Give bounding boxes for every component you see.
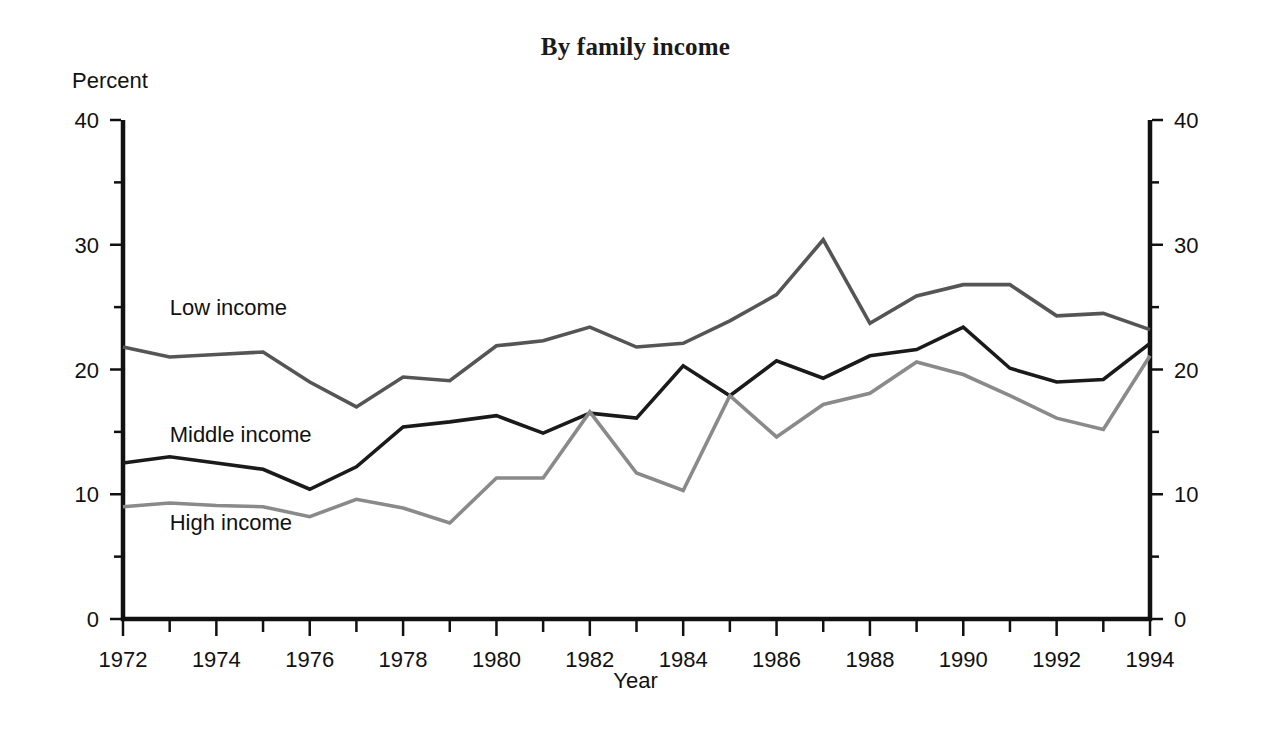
series-line-middle-income: [123, 327, 1150, 489]
series-line-low-income: [123, 240, 1150, 407]
tick-marks-group: [110, 120, 1163, 636]
series-label-middle-income: Middle income: [170, 422, 312, 447]
y-tick-label: 20: [75, 358, 99, 383]
axes-group: [123, 120, 1150, 619]
y-tick-label-right: 0: [1174, 607, 1186, 632]
axis-frame: [123, 120, 1150, 619]
series-label-high-income: High income: [170, 510, 292, 535]
y-tick-label: 30: [75, 233, 99, 258]
series-inline-labels-group: Low incomeMiddle incomeHigh income: [170, 295, 312, 536]
data-series-group: [123, 240, 1150, 523]
tick-labels-group: 0010102020303040401972197419761978198019…: [75, 108, 1199, 672]
y-tick-label: 40: [75, 108, 99, 133]
y-tick-label-right: 40: [1174, 108, 1198, 133]
y-tick-label-right: 20: [1174, 358, 1198, 383]
line-chart-plot: 0010102020303040401972197419761978198019…: [0, 0, 1271, 738]
y-tick-label: 10: [75, 482, 99, 507]
x-axis-title: Year: [0, 668, 1271, 694]
chart-figure: By family income Percent 001010202030304…: [0, 0, 1271, 738]
y-tick-label-right: 30: [1174, 233, 1198, 258]
y-tick-label: 0: [87, 607, 99, 632]
series-label-low-income: Low income: [170, 295, 287, 320]
y-tick-label-right: 10: [1174, 482, 1198, 507]
